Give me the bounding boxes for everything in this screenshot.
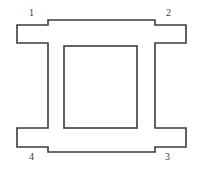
corner-label-4: 4 [29,152,34,162]
shape-drawing [0,0,202,172]
corner-label-1: 1 [29,8,34,18]
diagram-canvas: 1 2 3 4 [0,0,202,172]
corner-label-2: 2 [166,8,171,18]
corner-label-3: 3 [165,152,170,162]
